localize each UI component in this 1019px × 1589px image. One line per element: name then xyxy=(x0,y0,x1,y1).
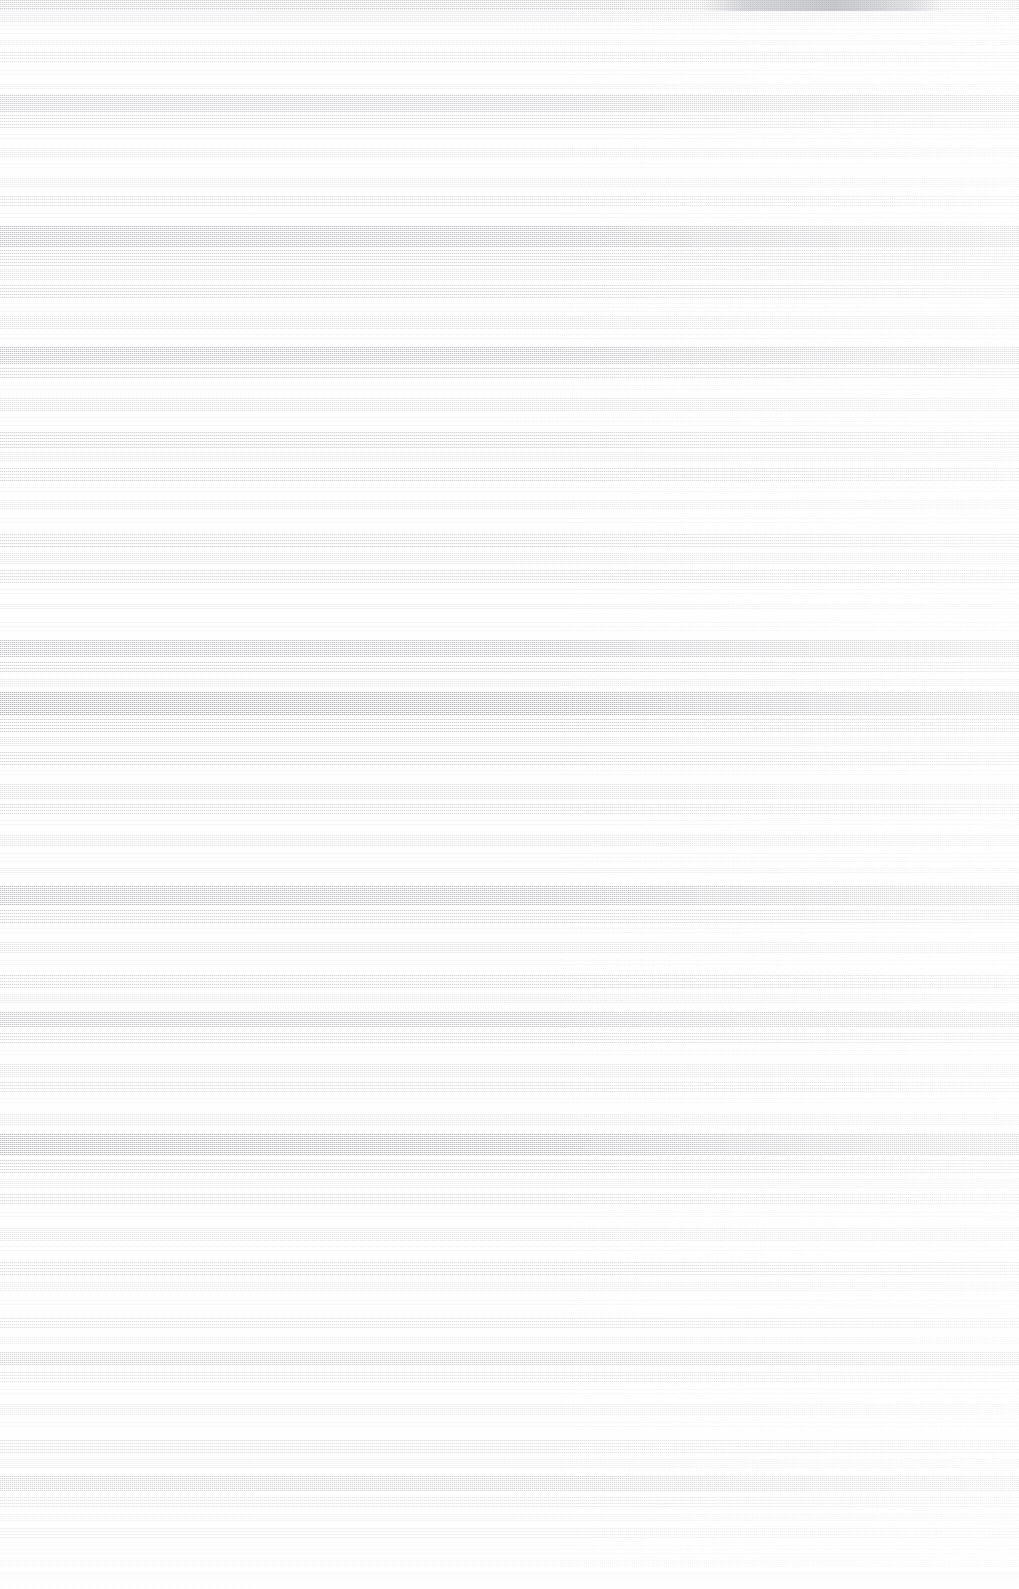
scanline-fade xyxy=(0,70,1019,77)
scanline-dither xyxy=(0,868,1019,874)
scanline-fade xyxy=(0,213,1019,220)
scanline-rows xyxy=(0,1560,1019,1568)
scanline-dither xyxy=(0,784,1019,799)
scanline-band xyxy=(0,719,1019,733)
scanline-rows xyxy=(0,303,1019,312)
scanline-band xyxy=(0,52,1019,64)
scanline-rows xyxy=(0,52,1019,64)
scanline-dither xyxy=(0,1337,1019,1345)
scanline-band xyxy=(0,452,1019,462)
scanline-dither xyxy=(0,25,1019,35)
scanline-band xyxy=(0,804,1019,815)
scanline-fade xyxy=(0,886,1019,906)
scanline-rows xyxy=(0,1389,1019,1396)
scanline-dither xyxy=(0,148,1019,158)
scanline-rows xyxy=(0,213,1019,220)
scanline-band xyxy=(0,1114,1019,1125)
scanline-band xyxy=(0,1476,1019,1492)
scanline-fade xyxy=(0,640,1019,658)
scanline-rows xyxy=(0,95,1019,113)
scanline-fade xyxy=(0,853,1019,862)
scanline-fade xyxy=(0,770,1019,778)
scanline-dither xyxy=(0,1372,1019,1382)
scanline-band xyxy=(0,500,1019,509)
scanline-band xyxy=(0,432,1019,448)
scanline-band xyxy=(0,960,1019,967)
scanline-band xyxy=(0,1372,1019,1382)
scanline-band xyxy=(0,134,1019,142)
scanline-rows xyxy=(0,1337,1019,1345)
scanline-fade xyxy=(0,115,1019,129)
scanline-fade xyxy=(0,604,1019,609)
scanline-dither xyxy=(0,622,1019,631)
scanline-rows xyxy=(0,269,1019,280)
scanline-rows xyxy=(0,84,1019,89)
scanline-dither xyxy=(0,1300,1019,1306)
scanline-dither xyxy=(0,770,1019,778)
scanline-rows xyxy=(0,1228,1019,1241)
scanline-rows xyxy=(0,1179,1019,1188)
scanline-band xyxy=(0,737,1019,747)
scanline-dither xyxy=(0,213,1019,220)
scanline-band xyxy=(0,692,1019,716)
scanline-band xyxy=(0,250,1019,266)
scanline-dither xyxy=(0,1422,1019,1430)
scanline-rows xyxy=(0,622,1019,631)
scanline-fade xyxy=(0,1050,1019,1058)
scanline-band xyxy=(0,1033,1019,1045)
scanline-fade xyxy=(0,975,1019,989)
scanline-band xyxy=(0,1012,1019,1028)
scanline-rows xyxy=(0,910,1019,923)
scanline-rows xyxy=(0,1033,1019,1045)
scanline-band xyxy=(0,1134,1019,1156)
footer-plate xyxy=(0,1572,1019,1589)
scanline-band xyxy=(0,84,1019,89)
scanline-dither xyxy=(0,835,1019,847)
scanline-rows xyxy=(0,752,1019,765)
scanline-band xyxy=(0,303,1019,312)
scanline-dither xyxy=(0,303,1019,312)
scanline-fade xyxy=(0,0,1019,9)
scanline-rows xyxy=(0,640,1019,658)
scanline-fade xyxy=(0,1422,1019,1430)
scanline-dither xyxy=(0,468,1019,481)
scanline-band xyxy=(0,1514,1019,1522)
scanline-fade xyxy=(0,196,1019,208)
scanline-dither xyxy=(0,518,1019,524)
scanline-dither xyxy=(0,1545,1019,1554)
scanline-fade xyxy=(0,1337,1019,1345)
scanline-rows xyxy=(0,1300,1019,1306)
scanline-band xyxy=(0,178,1019,187)
scanline-fade xyxy=(0,95,1019,113)
scanline-band xyxy=(0,70,1019,77)
scanline-dither xyxy=(0,737,1019,747)
scanline-fade xyxy=(0,385,1019,391)
scanline-band xyxy=(0,942,1019,953)
scanline-fade xyxy=(0,250,1019,266)
scanline-rows xyxy=(0,534,1019,549)
scanline-dither xyxy=(0,1318,1019,1330)
scanline-rows xyxy=(0,553,1019,564)
scanline-fade xyxy=(0,570,1019,583)
scanline-rows xyxy=(0,604,1019,609)
scanline-band xyxy=(0,1422,1019,1430)
scanline-fade xyxy=(0,1389,1019,1396)
scanline-fade xyxy=(0,942,1019,953)
scanline-fade xyxy=(0,679,1019,687)
scanline-fade xyxy=(0,1064,1019,1077)
scanline-rows xyxy=(0,886,1019,906)
scanline-rows xyxy=(0,942,1019,953)
scanline-rows xyxy=(0,468,1019,481)
scanline-rows xyxy=(0,784,1019,799)
scanline-fade xyxy=(0,1134,1019,1156)
scanline-rows xyxy=(0,1064,1019,1077)
scanline-band xyxy=(0,385,1019,391)
scanline-band xyxy=(0,368,1019,380)
scanline-rows xyxy=(0,518,1019,524)
scanline-band xyxy=(0,640,1019,658)
scanline-fade xyxy=(0,1459,1019,1468)
scanline-rows xyxy=(0,1352,1019,1366)
scanline-band xyxy=(0,347,1019,364)
scanline-band xyxy=(0,1440,1019,1453)
scanline-fade xyxy=(0,285,1019,299)
